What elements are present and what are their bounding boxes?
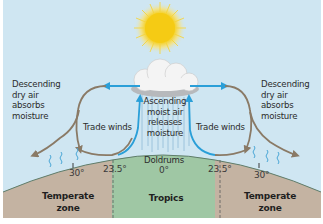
left-descending-label: Descending dry air absorbs moisture <box>12 79 61 121</box>
right-trade-winds-label: Trade winds <box>196 122 245 133</box>
right-tropic-latitude: 23.5° <box>208 164 232 175</box>
left-trade-winds-label: Trade winds <box>83 122 132 133</box>
sun-icon <box>134 2 186 54</box>
right-30-latitude: 30° <box>254 170 269 181</box>
left-30-latitude: 30° <box>69 168 84 179</box>
equator-latitude: 0° <box>154 165 174 176</box>
right-zone-label: Temperate zone <box>238 190 302 214</box>
right-descending-label: Descending dry air absorbs moisture <box>261 79 310 121</box>
bottom-margin <box>0 218 323 224</box>
center-ascending-label: Ascending moist air releases moisture <box>137 96 193 138</box>
doldrums-label: Doldrums <box>140 155 188 166</box>
center-zone-label: Tropics <box>136 192 196 204</box>
tropical-circulation-diagram: Descending dry air absorbs moisture Desc… <box>0 0 323 224</box>
left-tropic-latitude: 23.5° <box>103 164 127 175</box>
left-zone-label: Temperate zone <box>36 190 100 214</box>
